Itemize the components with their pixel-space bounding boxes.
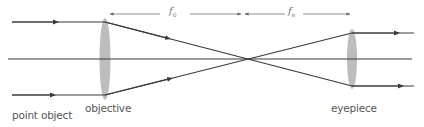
objective-label: objective (85, 102, 131, 114)
telescope-diagram: f0 fe point object objective eyepiece (0, 0, 424, 127)
eyepiece-label: eyepiece (331, 102, 377, 114)
point-object-label: point object (12, 109, 72, 121)
focal-length-eyepiece-label: fe (286, 5, 297, 18)
converging-ray-bottom-arrow (105, 79, 170, 95)
converging-ray-top-arrow (105, 22, 168, 38)
focal-length-objective-label: f0 (167, 5, 179, 18)
